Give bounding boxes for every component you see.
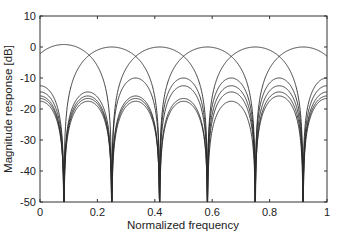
x-axis-label: Normalized frequency [127, 219, 239, 231]
x-tick-label: 0 [37, 206, 43, 218]
filter-response-line [40, 45, 327, 201]
y-tick-label: -30 [20, 134, 36, 146]
y-tick-label: -20 [20, 103, 36, 115]
filter-response-line [40, 47, 327, 202]
y-axis: 100-10-20-30-40-50 [20, 10, 327, 208]
x-tick-label: 1 [324, 206, 330, 218]
x-tick-label: 0.4 [147, 206, 162, 218]
filter-response-line [40, 47, 327, 202]
filter-response-line [40, 47, 327, 202]
y-tick-label: -40 [20, 165, 36, 177]
y-axis-label: Magnitude response [dB] [2, 45, 14, 173]
y-tick-label: 0 [30, 41, 36, 53]
filter-curves [40, 45, 327, 202]
x-tick-label: 0.2 [90, 206, 105, 218]
magnitude-response-chart: 100-10-20-30-40-50 00.20.40.60.81 Normal… [0, 0, 337, 238]
filter-response-line [40, 47, 327, 202]
x-tick-label: 0.6 [205, 206, 220, 218]
y-tick-label: -50 [20, 196, 36, 208]
x-axis: 00.20.40.60.81 [37, 16, 330, 218]
y-tick-label: -10 [20, 72, 36, 84]
filter-response-line [40, 47, 327, 202]
plot-frame [40, 16, 327, 202]
y-tick-label: 10 [24, 10, 36, 22]
x-tick-label: 0.8 [262, 206, 277, 218]
